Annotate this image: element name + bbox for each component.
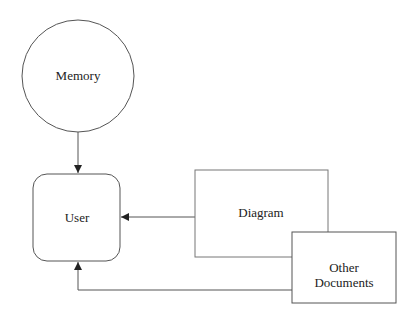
user-label: User xyxy=(65,210,90,225)
other-documents-node: Other Documents xyxy=(292,232,396,303)
edge-other-documents-to-user xyxy=(78,262,292,290)
other-documents-label-line2: Documents xyxy=(314,275,373,290)
other-documents-label-line1: Other xyxy=(329,260,359,275)
diagram-label: Diagram xyxy=(238,205,283,220)
memory-label: Memory xyxy=(56,68,101,83)
user-node: User xyxy=(33,174,120,261)
diagram-canvas: Memory User Diagram Other Documents xyxy=(0,0,412,317)
memory-node: Memory xyxy=(22,20,134,132)
